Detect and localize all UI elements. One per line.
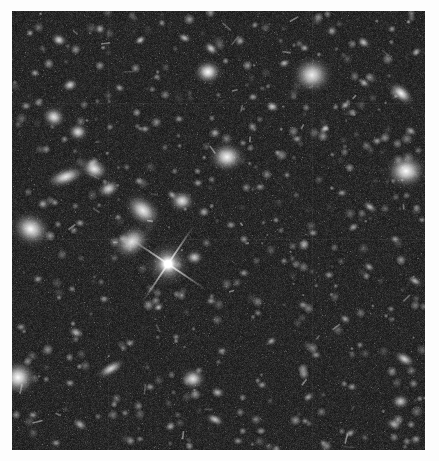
sky-object-point-68 xyxy=(320,267,337,283)
sky-object-point-79 xyxy=(384,302,399,316)
sky-object-point-62 xyxy=(386,231,403,247)
sky-object-elliptical-24 xyxy=(332,92,359,118)
sky-object-elliptical-6 xyxy=(194,32,229,66)
sky-object-point-108 xyxy=(47,435,64,450)
sky-object-elliptical-96 xyxy=(295,384,322,410)
sky-object-point-14 xyxy=(385,22,400,37)
sky-object-point-95 xyxy=(253,377,270,393)
sky-object-point-86 xyxy=(307,347,324,363)
sky-object-point-34 xyxy=(236,136,251,150)
sky-object-point-105 xyxy=(298,414,313,428)
sky-object-point-110 xyxy=(229,433,246,449)
sky-object-point-27 xyxy=(17,98,34,114)
sky-object-elliptical-1 xyxy=(43,24,76,56)
sky-object-elliptical-15 xyxy=(402,38,425,65)
sky-object-point-67 xyxy=(277,254,292,268)
sky-object-point-0 xyxy=(23,26,38,41)
sky-object-point-30 xyxy=(103,120,118,134)
sky-object-point-83 xyxy=(169,330,184,344)
sky-object-elliptical-69 xyxy=(355,254,382,281)
sky-object-elliptical-17 xyxy=(351,70,378,96)
sky-object-elliptical-28 xyxy=(29,93,78,141)
sky-object-elliptical-5 xyxy=(170,24,200,52)
sky-object-point-12 xyxy=(323,22,340,39)
sky-object-point-32 xyxy=(170,111,187,127)
sky-object-spiral-41 xyxy=(27,142,105,212)
sky-object-spiral-103 xyxy=(195,400,235,438)
sky-object-point-109 xyxy=(133,432,148,446)
sky-object-point-73 xyxy=(95,291,112,307)
sky-object-point-71 xyxy=(29,271,46,287)
sky-object-elliptical-23 xyxy=(258,92,288,121)
sky-object-point-48 xyxy=(251,179,268,195)
sky-object-point-49 xyxy=(280,168,295,182)
sky-object-elliptical-94 xyxy=(203,379,232,407)
sky-object-elliptical-56 xyxy=(162,182,203,221)
sky-object-point-104 xyxy=(252,423,269,439)
sky-object-point-76 xyxy=(251,306,266,320)
sky-object-point-8 xyxy=(248,18,263,32)
sky-object-diffuse-16 xyxy=(280,44,344,106)
sky-object-elliptical-3 xyxy=(127,27,154,53)
sky-object-elliptical-11 xyxy=(295,38,315,57)
sky-object-point-112 xyxy=(407,431,424,447)
sky-object-point-21 xyxy=(150,70,165,84)
sky-object-elliptical-38 xyxy=(398,118,425,144)
sky-object-elliptical-20 xyxy=(109,77,131,98)
deep-field-image-viewer xyxy=(0,0,439,461)
sky-object-point-97 xyxy=(343,379,360,395)
sky-object-elliptical-81 xyxy=(59,317,92,349)
sky-object-point-58 xyxy=(222,217,239,233)
sky-object-point-59 xyxy=(269,213,284,227)
sky-object-elliptical-43 xyxy=(85,166,133,212)
sky-object-spiral-42 xyxy=(64,140,124,198)
sky-object-elliptical-39 xyxy=(199,131,254,183)
sky-object-elliptical-26 xyxy=(420,105,425,124)
diffraction-spikes-icon xyxy=(122,218,214,310)
sky-object-point-87 xyxy=(353,338,368,352)
sky-object-elliptical-100 xyxy=(63,408,97,441)
sky-object-point-80 xyxy=(12,319,29,335)
sky-object-elliptical-70 xyxy=(398,265,425,297)
sky-object-point-50 xyxy=(333,185,350,201)
sky-object-point-102 xyxy=(161,419,178,435)
sky-object-elliptical-18 xyxy=(26,65,43,81)
sky-object-spiral-25 xyxy=(371,64,425,124)
sky-object-point-66 xyxy=(235,265,252,281)
sky-object-point-84 xyxy=(213,343,230,359)
sky-object-elliptical-51 xyxy=(353,190,387,223)
sky-object-point-99 xyxy=(24,407,41,423)
sky-object-point-92 xyxy=(141,379,158,395)
sky-object-point-60 xyxy=(304,225,321,241)
sky-object-elliptical-46 xyxy=(158,181,185,208)
sky-object-point-53 xyxy=(71,215,88,231)
sky-object-point-2 xyxy=(91,20,108,37)
sky-object-point-22 xyxy=(244,89,261,105)
sky-object-point-72 xyxy=(65,282,80,296)
sky-object-elliptical-33 xyxy=(205,123,225,142)
sky-object-point-35 xyxy=(288,131,305,147)
foreground-star-with-diffraction-spikes xyxy=(122,218,214,310)
sky-object-elliptical-61 xyxy=(340,214,367,240)
sky-object-elliptical-19 xyxy=(53,69,87,102)
sky-object-point-111 xyxy=(316,436,331,450)
sky-object-point-31 xyxy=(136,121,153,137)
sky-object-point-4 xyxy=(155,16,170,31)
sky-object-elliptical-107 xyxy=(377,408,411,441)
sky-object-star-89 xyxy=(12,349,47,406)
sky-object-elliptical-13 xyxy=(348,28,379,59)
sky-object-elliptical-106 xyxy=(337,420,364,446)
sky-object-point-45 xyxy=(130,173,147,189)
sky-object-point-90 xyxy=(61,375,78,391)
sky-object-elliptical-29 xyxy=(62,117,94,148)
sky-object-elliptical-10 xyxy=(271,51,296,75)
galaxy-object-layer xyxy=(12,11,425,450)
sky-object-point-37 xyxy=(368,133,385,149)
sky-object-elliptical-78 xyxy=(332,306,359,332)
sky-object-elliptical-40 xyxy=(374,141,425,202)
sky-object-point-63 xyxy=(415,213,425,227)
sky-object-point-7 xyxy=(231,32,248,49)
sky-object-elliptical-85 xyxy=(258,328,285,354)
sky-object-point-82 xyxy=(121,335,138,351)
sky-object-star-9 xyxy=(186,51,230,93)
